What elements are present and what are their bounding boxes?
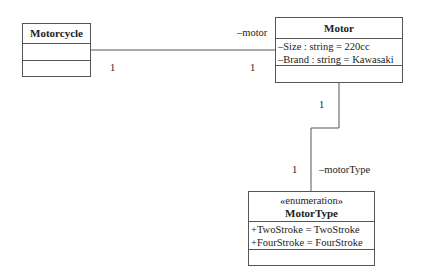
attributes-compartment [23,43,90,60]
operations-compartment [249,249,374,265]
class-name: Motorcycle [23,24,90,43]
attributes-compartment: –Size : string = 220cc –Brand : string =… [276,38,402,65]
enum-header: «enumeration» MotorType [249,192,374,221]
literals-compartment: +TwoStroke = TwoStroke +FourStroke = Fou… [249,221,374,249]
class-motorcycle[interactable]: Motorcycle [22,23,91,77]
multiplicity-motor-source: 1 [319,99,324,111]
enum-name: MotorType [249,207,374,220]
stereotype-label: «enumeration» [249,195,374,207]
attribute-size: –Size : string = 220cc [276,40,402,53]
operations-compartment [23,60,90,76]
enum-motortype[interactable]: «enumeration» MotorType +TwoStroke = Two… [248,191,375,266]
class-motor[interactable]: Motor –Size : string = 220cc –Brand : st… [275,17,403,83]
multiplicity-motortype-end: 1 [292,164,297,176]
role-label-motortype: –motorType [319,164,370,176]
attribute-brand: –Brand : string = Kawasaki [276,53,402,66]
role-label-motor: –motor [237,27,267,39]
literal-fourstroke: +FourStroke = FourStroke [249,236,374,249]
multiplicity-motor-end: 1 [250,62,255,74]
operations-compartment [276,65,402,82]
literal-twostroke: +TwoStroke = TwoStroke [249,223,374,236]
class-name: Motor [276,18,402,38]
multiplicity-motorcycle-end: 1 [110,62,115,74]
